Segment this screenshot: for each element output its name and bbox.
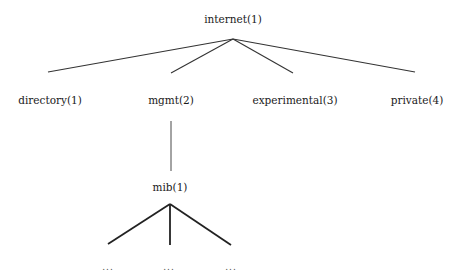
node-mgmt: mgmt(2) [148, 94, 194, 106]
node-mib-child-1-ellipsis: ... [102, 262, 114, 272]
node-mib: mib(1) [153, 181, 188, 193]
node-private: private(4) [391, 94, 444, 106]
node-directory: directory(1) [18, 94, 82, 106]
node-experimental: experimental(3) [252, 94, 337, 106]
tree-edges [0, 0, 453, 280]
edge-internet-private [233, 39, 415, 72]
node-mib-child-3-ellipsis: ... [225, 262, 237, 272]
node-mib-child-2-ellipsis: ... [163, 262, 175, 272]
edge-internet-directory [48, 39, 233, 72]
edge-mib-child-3 [170, 204, 231, 245]
node-internet: internet(1) [204, 13, 262, 25]
edge-mib-child-1 [108, 204, 170, 244]
